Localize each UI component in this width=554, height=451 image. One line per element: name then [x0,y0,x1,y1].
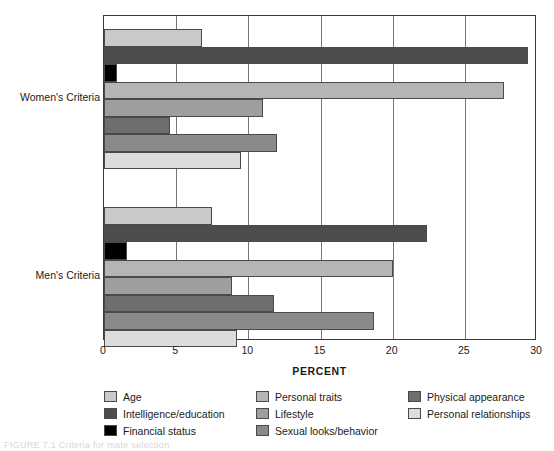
x-tick-label: 20 [386,344,398,356]
bar [104,82,504,100]
legend-label: Personal relationships [427,408,530,420]
legend-item: Personal traits [256,391,408,403]
legend-item: Lifestyle [256,408,408,420]
legend-swatch-icon [104,425,117,436]
x-tick-label: 5 [172,344,178,356]
bar [104,242,127,260]
legend-swatch-icon [408,391,421,402]
x-tick-label: 0 [100,344,106,356]
legend-swatch-icon [256,408,269,419]
x-tick-label: 10 [241,344,253,356]
x-tick-label: 15 [314,344,326,356]
legend-swatch-icon [408,408,421,419]
bars-layer [104,16,535,339]
legend-item: Personal relationships [408,408,548,420]
legend-item: Age [104,391,256,403]
plot-area [103,15,536,340]
bar [104,64,117,82]
legend-label: Lifestyle [275,408,314,420]
legend-swatch-icon [104,408,117,419]
x-axis-title: PERCENT [103,365,536,377]
legend-label: Sexual looks/behavior [275,425,378,437]
legend-item: Sexual looks/behavior [256,425,408,437]
legend-swatch-icon [104,391,117,402]
legend-label: Personal traits [275,391,342,403]
legend-label: Physical appearance [427,391,524,403]
bar [104,152,241,170]
group-label: Men's Criteria [0,269,108,281]
legend-item: Financial status [104,425,256,437]
group-label: Women's Criteria [0,91,108,103]
bar [104,47,528,65]
bar [104,99,263,117]
legend: AgePersonal traitsPhysical appearanceInt… [104,388,548,439]
legend-label: Age [123,391,142,403]
legend-item: Physical appearance [408,391,548,403]
bar [104,330,237,348]
bar [104,312,374,330]
bar [104,117,170,135]
legend-item: Intelligence/education [104,408,256,420]
figure-caption: FIGURE 7.1 Criteria for mate selection [4,440,169,450]
bar [104,134,277,152]
bar-chart: Women's CriteriaMen's Criteria 051015202… [0,0,554,451]
bar [104,295,274,313]
bar [104,207,212,225]
legend-swatch-icon [256,391,269,402]
bar [104,225,427,243]
legend-swatch-icon [256,425,269,436]
bar [104,29,202,47]
legend-label: Financial status [123,425,196,437]
x-tick-label: 30 [530,344,542,356]
bar [104,277,232,295]
x-tick-label: 25 [458,344,470,356]
bar [104,260,393,278]
legend-label: Intelligence/education [123,408,225,420]
